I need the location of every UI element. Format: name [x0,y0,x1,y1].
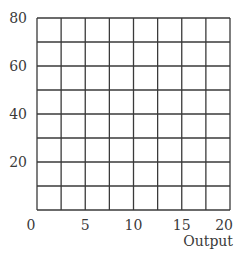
y-tick-label: 40 [9,106,27,122]
y-tick-label: 60 [9,58,27,74]
x-axis-label: Output [183,233,233,249]
x-tick-label: 0 [27,217,36,233]
blank-grid-chart: 20406080 05101520 Output [0,0,248,260]
y-tick-label: 80 [9,10,27,26]
x-tick-label: 5 [81,217,90,233]
x-tick-label: 15 [173,217,191,233]
chart-grid [37,18,230,210]
x-tick-label: 20 [215,217,233,233]
y-axis-tick-labels: 20406080 [9,10,27,170]
x-axis-tick-labels: 05101520 [27,217,233,233]
y-tick-label: 20 [9,154,27,170]
x-tick-label: 10 [125,217,143,233]
